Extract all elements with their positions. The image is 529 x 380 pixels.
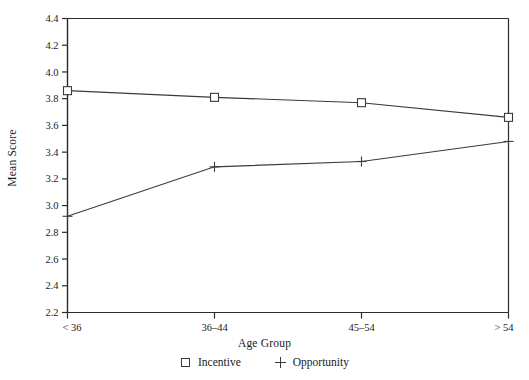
x-axis-title: Age Group	[0, 337, 529, 349]
chart-legend: Incentive Opportunity	[0, 356, 529, 368]
legend-label-incentive: Incentive	[198, 356, 241, 368]
square-marker-icon	[180, 357, 191, 368]
svg-text:45–54: 45–54	[348, 322, 375, 333]
svg-text:4.4: 4.4	[45, 13, 59, 24]
y-axis-title: Mean Score	[6, 113, 18, 203]
svg-text:2.6: 2.6	[45, 254, 58, 265]
svg-text:3.0: 3.0	[45, 200, 58, 211]
legend-item-opportunity: Opportunity	[275, 356, 349, 368]
svg-text:> 54: > 54	[494, 322, 514, 333]
svg-text:4.0: 4.0	[45, 67, 58, 78]
svg-text:2.8: 2.8	[45, 227, 58, 238]
plus-marker-icon	[275, 357, 286, 368]
svg-text:3.8: 3.8	[45, 93, 58, 104]
svg-text:36–44: 36–44	[201, 322, 228, 333]
svg-text:3.2: 3.2	[45, 173, 58, 184]
chart-figure: 2.22.42.62.83.03.23.43.63.84.04.24.4< 36…	[0, 0, 529, 380]
legend-label-opportunity: Opportunity	[293, 356, 349, 368]
svg-text:3.4: 3.4	[45, 147, 59, 158]
svg-text:3.6: 3.6	[45, 120, 58, 131]
svg-text:< 36: < 36	[63, 322, 82, 333]
svg-text:4.2: 4.2	[45, 40, 58, 51]
svg-text:2.4: 2.4	[45, 280, 59, 291]
line-chart-plot: 2.22.42.62.83.03.23.43.63.84.04.24.4< 36…	[0, 0, 529, 380]
svg-text:2.2: 2.2	[45, 307, 58, 318]
legend-item-incentive: Incentive	[180, 356, 241, 368]
